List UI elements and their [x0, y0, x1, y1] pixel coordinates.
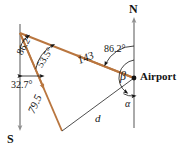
side-label-d: d — [95, 113, 101, 124]
south-label: S — [7, 133, 14, 145]
angle-label-bearing-airport: 86.2° — [104, 44, 126, 54]
north-label: N — [129, 3, 138, 15]
angle-arc-alpha — [123, 94, 134, 96]
airport-point-marker — [132, 76, 137, 81]
navigation-triangle-diagram: N S 86.2° 53.5° 32.7° 143 79.5 86.2° β α… — [0, 0, 179, 155]
angle-label-alpha: α — [125, 99, 130, 109]
angle-label-lower-left: 32.7° — [11, 80, 33, 90]
angle-label-beta: β — [120, 70, 126, 82]
airport-label: Airport — [140, 71, 176, 82]
